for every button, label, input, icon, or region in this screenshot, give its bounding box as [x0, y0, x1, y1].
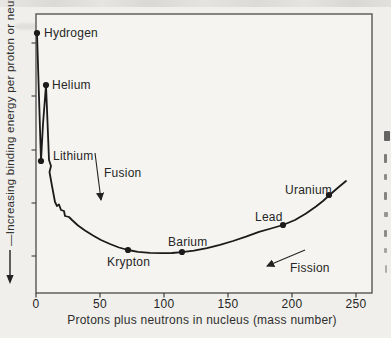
- y-axis-ticks: [32, 43, 37, 256]
- point-label-hydrogen: Hydrogen: [44, 26, 98, 40]
- x-axis-ticks: 050100150200250: [33, 293, 367, 311]
- point-label-krypton: Krypton: [107, 255, 150, 269]
- y-axis-label: —Increasing binding energy per proton or…: [4, 0, 16, 246]
- x-tick-label-200: 200: [282, 297, 303, 311]
- cropped-glyph-fragment: [384, 212, 388, 217]
- point-label-helium: Helium: [52, 78, 91, 92]
- x-tick-label-100: 100: [154, 297, 175, 311]
- x-tick-label-150: 150: [218, 297, 239, 311]
- x-tick-label-250: 250: [346, 297, 367, 311]
- cropped-glyph-fragment: [384, 174, 387, 180]
- scanned-figure-page: 050100150200250 HydrogenHeliumKryptonBar…: [0, 0, 391, 338]
- helium-data-point: [43, 82, 49, 88]
- cropped-glyph-fragment: [384, 154, 387, 163]
- hydrogen-data-point: [34, 30, 40, 36]
- point-label-barium: Barium: [168, 235, 208, 249]
- fission-label: Fission: [290, 261, 330, 275]
- cropped-glyph-fragment: [384, 248, 387, 253]
- fusion-label: Fusion: [104, 166, 142, 180]
- x-axis-label: Protons plus neutrons in nucleus (mass n…: [67, 313, 337, 327]
- point-label-lead: Lead: [255, 210, 283, 224]
- y-axis-direction-arrow-icon: [6, 250, 13, 284]
- cropped-glyph-fragment: [384, 131, 390, 141]
- x-tick-label-50: 50: [93, 297, 107, 311]
- krypton-data-point: [125, 247, 131, 253]
- region-label-lithium: Lithium: [53, 149, 93, 163]
- unlabeled-data-point: [38, 158, 44, 164]
- cropped-glyph-fragment: [384, 230, 387, 237]
- cropped-glyph-fragment: [384, 192, 387, 200]
- binding-energy-chart: 050100150200250 HydrogenHeliumKryptonBar…: [0, 0, 391, 338]
- cropped-glyph-fragment: [385, 265, 387, 273]
- cropped-text-fragments: [384, 131, 390, 273]
- x-tick-label-0: 0: [33, 297, 40, 311]
- point-label-uranium: Uranium: [285, 183, 332, 197]
- barium-data-point: [179, 249, 185, 255]
